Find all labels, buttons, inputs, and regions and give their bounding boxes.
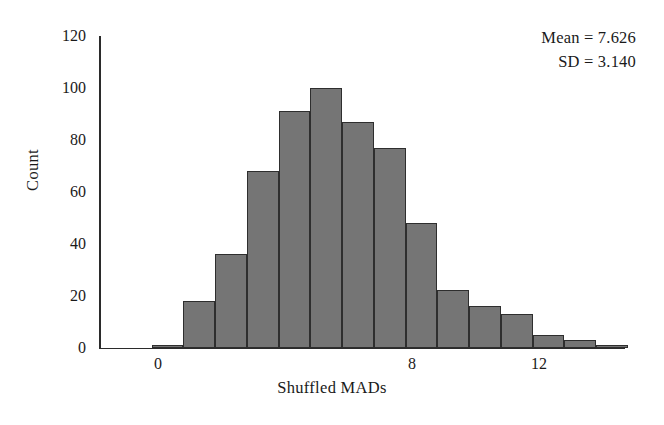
histogram-bar — [279, 111, 311, 347]
histogram-bar — [374, 148, 406, 348]
histogram-bar — [533, 335, 565, 348]
histogram-bar — [215, 254, 247, 347]
histogram-bar — [406, 223, 438, 348]
histogram-figure: Mean = 7.626 SD = 3.140 Count Shuffled M… — [0, 0, 664, 425]
histogram-bar — [564, 340, 596, 348]
histogram-bars — [0, 0, 664, 425]
histogram-bar — [247, 171, 279, 348]
histogram-bar — [183, 301, 215, 348]
histogram-bar — [152, 345, 184, 348]
histogram-bar — [342, 122, 374, 348]
histogram-bar — [501, 314, 533, 348]
histogram-bar — [596, 345, 628, 348]
histogram-bar — [469, 306, 501, 348]
histogram-bar — [437, 290, 469, 347]
histogram-bar — [310, 88, 342, 348]
